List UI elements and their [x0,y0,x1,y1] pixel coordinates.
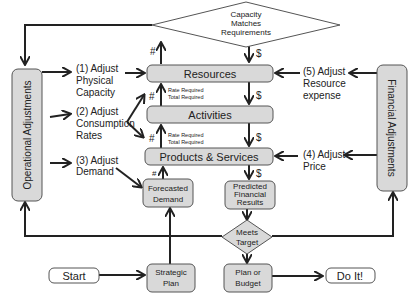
products-services-box[interactable]: Products & Services [145,148,273,165]
svg-text:Rates: Rates [76,130,102,141]
meets-target-decision[interactable]: Meets Target [222,220,272,254]
decision-line-2: Matches [231,19,261,28]
strategic-plan-box[interactable]: Strategic Plan [147,264,195,292]
activities-label: Activities [188,109,232,121]
financial-adjustments-box[interactable]: Financial Adjustments [377,65,407,191]
rate-required-label: Rate Required [168,87,203,93]
meets-target-line-2: Target [236,238,259,247]
svg-text:Physical: Physical [76,75,113,86]
products-services-label: Products & Services [159,151,259,163]
start-node[interactable]: Start [49,268,99,283]
do-it-node[interactable]: Do It! [326,268,375,283]
do-it-label: Do It! [337,270,363,282]
total-required-label: Total Required [168,94,203,100]
operational-adjustments-box[interactable]: Operational Adjustments [12,69,42,201]
predicted-line-3: Results [237,198,264,207]
adjust-physical-capacity-label: (1) Adjust Physical Capacity [76,63,118,98]
plan-or-budget-box[interactable]: Plan or Budget [224,264,272,292]
svg-text:(2) Adjust: (2) Adjust [76,106,118,117]
rate-required-label: Rate Required [168,132,203,138]
plan-line-2: Budget [235,279,261,288]
operational-adjustments-label: Operational Adjustments [22,81,33,190]
money-symbol: $ [256,90,262,101]
quantity-symbol: # [152,169,157,178]
svg-text:expense: expense [303,90,341,101]
svg-text:Demand: Demand [76,166,114,177]
financial-adjustments-label: Financial Adjustments [386,79,397,176]
strategic-line-2: Plan [163,279,179,288]
money-symbol: $ [256,168,262,179]
predicted-financial-results-box[interactable]: Predicted Financial Results [225,181,275,209]
quantity-symbol: # [149,91,155,102]
adjust-demand-label: (3) Adjust Demand [76,155,118,177]
svg-text:(1) Adjust: (1) Adjust [76,63,118,74]
resources-label: Resources [184,68,237,80]
decision-line-1: Capacity [230,10,261,19]
adjust-price-label: (4) Adjust Price [303,149,345,172]
decision-line-3: Requirements [221,28,271,37]
svg-text:Price: Price [303,161,326,172]
resources-box[interactable]: Resources [147,65,273,82]
quantity-symbol: # [149,133,155,144]
svg-text:Capacity: Capacity [76,87,115,98]
quantity-symbol: # [150,46,156,57]
plan-line-1: Plan or [235,268,261,277]
flow-diagram: Capacity Matches Requirements # $ # $ # … [0,0,414,298]
strategic-line-1: Strategic [155,268,187,277]
svg-text:(3) Adjust: (3) Adjust [76,155,118,166]
meets-target-line-1: Meets [236,228,258,237]
money-symbol: $ [256,132,262,143]
forecasted-line-2: Demand [153,195,183,204]
start-label: Start [62,270,85,282]
svg-text:Resource: Resource [303,78,346,89]
forecasted-line-1: Forecasted [148,184,188,193]
total-required-label: Total Required [168,139,203,145]
svg-text:(5) Adjust: (5) Adjust [303,66,345,77]
forecasted-demand-box[interactable]: Forecasted Demand [143,179,193,207]
svg-text:(4) Adjust: (4) Adjust [303,149,345,160]
capacity-matches-requirements-decision[interactable]: Capacity Matches Requirements [152,2,340,47]
activities-box[interactable]: Activities [147,106,273,123]
money-symbol: $ [256,48,262,59]
svg-text:Consumption: Consumption [76,118,135,129]
adjust-resource-expense-label: (5) Adjust Resource expense [303,66,346,101]
adjust-consumption-rates-label: (2) Adjust Consumption Rates [76,106,135,141]
